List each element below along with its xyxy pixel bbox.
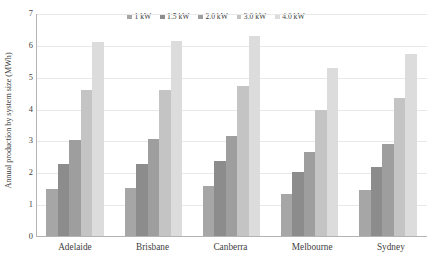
bar[interactable] <box>159 90 171 237</box>
bar-group <box>125 14 183 237</box>
plot-area <box>36 14 427 237</box>
bar-group <box>281 14 339 237</box>
x-axis-category-label: Brisbane <box>136 243 169 252</box>
x-axis-category-label: Adelaide <box>58 243 92 252</box>
y-axis-tick-label: 2 <box>7 169 33 177</box>
bar[interactable] <box>249 36 261 237</box>
y-axis-tick-label: 7 <box>7 10 33 18</box>
x-axis-category-label: Canberra <box>213 243 247 252</box>
bar[interactable] <box>46 189 58 237</box>
y-axis-tick-label: 1 <box>7 201 33 209</box>
y-axis-tick-label: 5 <box>7 74 33 82</box>
bar[interactable] <box>92 42 104 237</box>
bar[interactable] <box>58 164 70 237</box>
bar[interactable] <box>136 164 148 237</box>
y-axis-tick-label: 3 <box>7 137 33 145</box>
bar[interactable] <box>203 186 215 237</box>
y-axis-tick-label: 6 <box>7 42 33 50</box>
bar[interactable] <box>237 86 249 237</box>
y-axis-tick-label: 4 <box>7 105 33 113</box>
bar[interactable] <box>214 161 226 237</box>
x-axis-category-labels: AdelaideBrisbaneCanberraMelbourneSydney <box>36 243 427 252</box>
bar-groups <box>36 14 427 237</box>
y-axis-tick-label: 0 <box>7 233 33 241</box>
bar[interactable] <box>69 140 81 237</box>
bar[interactable] <box>226 136 238 237</box>
x-axis-category-label: Sydney <box>377 243 405 252</box>
bar[interactable] <box>304 152 316 237</box>
bar[interactable] <box>394 98 406 237</box>
y-axis-tick-labels: 01234567 <box>0 14 33 237</box>
bar[interactable] <box>292 172 304 237</box>
bar[interactable] <box>327 68 339 237</box>
bar-group <box>203 14 261 237</box>
bar[interactable] <box>405 54 417 237</box>
bar[interactable] <box>81 90 93 237</box>
bar-group <box>359 14 417 237</box>
bar[interactable] <box>148 139 160 237</box>
bar[interactable] <box>281 194 293 237</box>
bar[interactable] <box>382 144 394 237</box>
bar-chart: Annual production by system size (MWh) 0… <box>0 0 432 263</box>
x-axis-category-label: Melbourne <box>292 243 333 252</box>
bar[interactable] <box>315 110 327 237</box>
bar[interactable] <box>171 41 183 237</box>
bar[interactable] <box>125 188 137 237</box>
bar[interactable] <box>359 190 371 237</box>
x-axis-line <box>36 236 427 237</box>
bar-group <box>46 14 104 237</box>
bar[interactable] <box>371 167 383 237</box>
